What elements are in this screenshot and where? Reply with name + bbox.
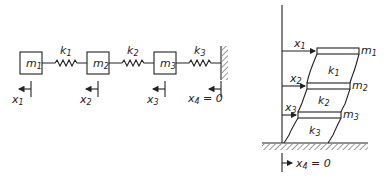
rt-disp-label-1: x1	[293, 37, 306, 51]
floor-mass-label-3: m3	[343, 108, 359, 122]
spring-k2	[109, 60, 154, 66]
spring-k1	[42, 60, 87, 66]
disp-label-1: x1	[11, 93, 24, 107]
rt-disp-label-3: x3	[284, 101, 297, 115]
disp-label-2: x2	[79, 93, 92, 107]
story-stiffness-label-2: k2	[318, 94, 329, 108]
floor-slab-1	[317, 48, 359, 54]
mass-label-2: m2	[93, 57, 109, 71]
rt-disp-label-4: x4 = 0	[295, 157, 331, 171]
floor-mass-label-1: m1	[361, 44, 377, 58]
spring-label-1: k1	[60, 44, 71, 58]
mass-label-3: m3	[160, 57, 176, 71]
spring-k3	[176, 60, 221, 66]
spring-label-3: k3	[194, 44, 205, 58]
disp-label-4: x4 = 0	[187, 92, 223, 106]
disp-label-3: x3	[146, 93, 159, 107]
floor-slab-2	[307, 83, 350, 89]
diagram-canvas: m1 m2 m3 k1 k2 k3 x1 x2 x3 x4 = 0	[0, 0, 388, 185]
story-stiffness-label-1: k1	[328, 64, 339, 78]
rt-disp-label-2: x2	[289, 72, 302, 86]
ground-hatch	[262, 144, 368, 150]
spring-label-2: k2	[127, 44, 138, 58]
floor-mass-label-2: m2	[352, 79, 368, 93]
shear-building: x1 x2 x3 m1 m2 m3 k1 k2 k3 x4 = 0	[262, 5, 377, 172]
wall-hatch	[222, 46, 228, 80]
mass-spring-chain: m1 m2 m3 k1 k2 k3 x1 x2 x3 x4 = 0	[11, 44, 228, 107]
mass-label-1: m1	[26, 57, 42, 71]
story-stiffness-label-3: k3	[309, 124, 320, 138]
floor-slab-3	[298, 112, 341, 118]
